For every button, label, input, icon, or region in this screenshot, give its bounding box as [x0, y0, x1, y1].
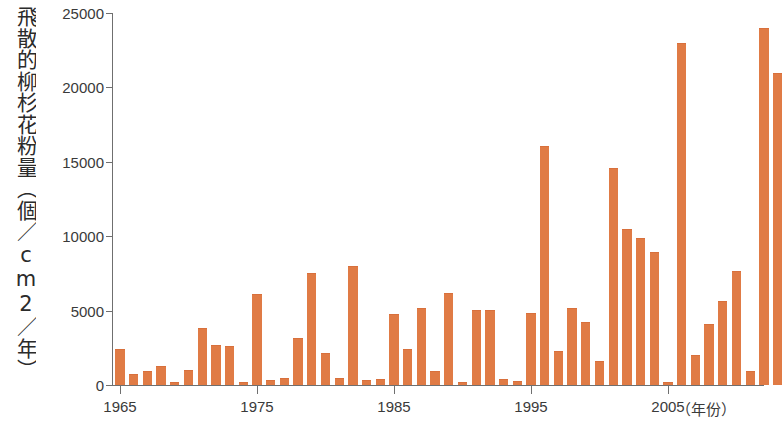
bar: [622, 229, 631, 385]
x-axis-tick-mark: [120, 386, 121, 394]
bar: [636, 238, 645, 385]
bar: [554, 351, 563, 385]
x-axis-tick-label: 1985: [364, 398, 424, 415]
x-axis-tick-mark: [531, 386, 532, 394]
x-axis-tick-label: 2005: [638, 398, 698, 415]
bar: [293, 338, 302, 385]
plot-area: [112, 13, 764, 385]
bar: [677, 43, 686, 385]
bar: [348, 266, 357, 385]
y-axis-tick-label: 10000: [38, 228, 104, 245]
bar: [362, 380, 371, 385]
x-axis-tick-mark: [394, 386, 395, 394]
bar: [718, 301, 727, 385]
bar: [581, 322, 590, 385]
bar: [143, 371, 152, 385]
bar: [115, 349, 124, 385]
bar: [129, 374, 138, 385]
y-axis-title: 飛散的柳杉花粉量（個／cm2／年）: [2, 6, 36, 394]
bar: [198, 328, 207, 385]
bar: [225, 346, 234, 385]
bar: [321, 353, 330, 385]
bar: [499, 379, 508, 385]
bar: [211, 345, 220, 385]
bar: [430, 371, 439, 385]
bar: [252, 294, 261, 385]
bar: [704, 324, 713, 385]
bar: [184, 370, 193, 385]
x-axis-line: [112, 385, 764, 386]
y-axis-tick-mark: [106, 13, 113, 14]
bar: [403, 349, 412, 385]
bar: [458, 382, 467, 385]
bar: [389, 314, 398, 385]
bar: [376, 379, 385, 385]
y-axis-tick-label: 15000: [38, 153, 104, 170]
bar: [266, 380, 275, 385]
x-axis-tick-mark: [668, 386, 669, 394]
x-axis-tick-label: 1975: [227, 398, 287, 415]
y-axis-tick-label: 20000: [38, 79, 104, 96]
bar: [732, 271, 741, 385]
bar: [239, 382, 248, 385]
bar: [663, 382, 672, 385]
x-axis-tick-label: 1965: [90, 398, 150, 415]
bar: [335, 378, 344, 385]
x-axis-tick-mark: [257, 386, 258, 394]
bar: [650, 252, 659, 385]
bar: [444, 293, 453, 385]
bar: [472, 310, 481, 385]
y-axis-tick-mark: [106, 385, 113, 386]
bar: [526, 313, 535, 385]
bar: [307, 273, 316, 385]
bar: [759, 28, 768, 385]
bar: [156, 366, 165, 385]
bar: [609, 168, 618, 385]
bar: [485, 310, 494, 385]
bar: [595, 361, 604, 385]
bar: [746, 371, 755, 385]
bar: [773, 73, 782, 385]
x-axis-tick-label: 1995: [501, 398, 561, 415]
y-axis-tick-mark: [106, 236, 113, 237]
y-axis-tick-mark: [106, 311, 113, 312]
y-axis-tick-mark: [106, 87, 113, 88]
bar: [170, 382, 179, 385]
bar: [567, 308, 576, 385]
bar: [691, 355, 700, 385]
y-axis-tick-mark: [106, 162, 113, 163]
y-axis-tick-label: 5000: [38, 302, 104, 319]
y-axis-tick-label-group: 0500010000150002000025000: [38, 0, 104, 437]
bar: [280, 378, 289, 385]
y-axis-tick-label: 25000: [38, 5, 104, 22]
bar: [417, 308, 426, 385]
bar: [540, 146, 549, 385]
y-axis-tick-label: 0: [38, 377, 104, 394]
bar: [513, 381, 522, 385]
